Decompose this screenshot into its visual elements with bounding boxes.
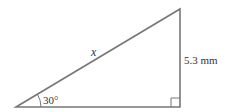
triangle: [16, 9, 180, 107]
side-label: 5.3 mm: [184, 54, 218, 66]
hypotenuse-label: x: [90, 45, 97, 59]
angle-arc: [38, 94, 42, 107]
right-angle-marker: [171, 98, 180, 107]
triangle-diagram: x 5.3 mm 30°: [0, 0, 228, 112]
angle-label: 30°: [43, 94, 58, 106]
